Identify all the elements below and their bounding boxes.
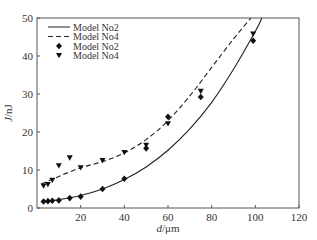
diamond-marker (198, 94, 204, 101)
diamond-marker (49, 197, 55, 204)
x-tick-label: 120 (291, 211, 308, 223)
y-axis-label: J/nJ (2, 103, 14, 121)
x-tick-label: 40 (119, 211, 131, 223)
model-no2-data-points (41, 38, 257, 205)
diamond-marker (67, 195, 73, 202)
y-tick-label: 0 (28, 202, 34, 214)
triangle-down-marker (56, 163, 62, 168)
y-tick-label: 40 (22, 50, 34, 62)
y-tick-label: 30 (22, 88, 34, 100)
legend: Model No2Model No4Model No2Model No4 (48, 22, 119, 62)
diamond-marker (56, 43, 62, 50)
triangle-down-marker (121, 150, 127, 155)
triangle-down-marker (41, 183, 47, 188)
legend-label: Model No4 (73, 50, 119, 61)
y-tick-label: 50 (22, 12, 34, 24)
diamond-marker (56, 197, 62, 204)
y-tick-label: 10 (22, 164, 34, 176)
x-tick-label: 80 (206, 211, 218, 223)
x-tick-label: 100 (247, 211, 264, 223)
triangle-down-marker (67, 155, 73, 160)
x-tick-label: 20 (75, 211, 87, 223)
diamond-marker (78, 193, 84, 200)
triangle-down-marker (165, 121, 171, 126)
axes: 0102030405020406080100120 (22, 12, 308, 223)
triangle-down-marker (56, 53, 62, 58)
x-axis-label: d/μm (156, 222, 179, 234)
y-tick-label: 20 (22, 126, 34, 138)
legend-item: Model No4 (56, 50, 119, 61)
triangle-down-marker (143, 143, 149, 148)
triangle-down-marker (250, 31, 256, 36)
diamond-marker (100, 186, 106, 193)
chart: 0102030405020406080100120 Model No2Model… (0, 0, 317, 240)
triangle-down-marker (198, 89, 204, 94)
